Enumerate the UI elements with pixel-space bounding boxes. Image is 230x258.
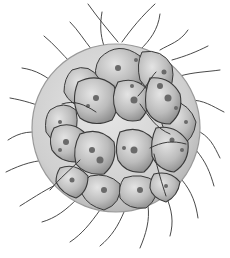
colony-illustration: [0, 0, 230, 258]
illustration-canvas: [0, 0, 230, 258]
